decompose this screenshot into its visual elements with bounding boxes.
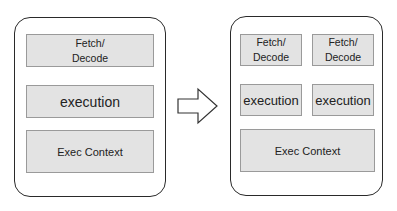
execution-block: execution — [26, 85, 154, 118]
execution-block-1: execution — [240, 84, 302, 116]
right-arrow-icon — [176, 86, 220, 126]
arrow-shape — [178, 89, 217, 123]
exec-context-block: Exec Context — [26, 130, 154, 173]
fetch-decode-block-2: Fetch/ Decode — [312, 34, 374, 66]
execution-block-2: execution — [312, 84, 374, 116]
exec-context-block-shared: Exec Context — [240, 129, 375, 172]
fetch-decode-block: Fetch/ Decode — [26, 34, 154, 67]
fetch-decode-block-1: Fetch/ Decode — [240, 34, 302, 66]
